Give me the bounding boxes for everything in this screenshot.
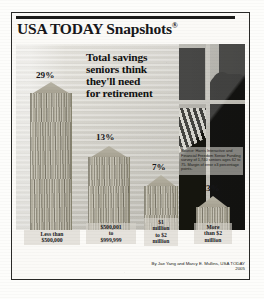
snapshot-card: USA TODAY Snapshots® bbox=[0, 0, 264, 299]
category-label: More than $2 million bbox=[194, 223, 232, 244]
category-label-line: $500,000 bbox=[24, 237, 80, 243]
byline-credit: By Jae Yang and Marcy E. Mullins, USA TO… bbox=[151, 261, 245, 266]
masthead: USA TODAY Snapshots® bbox=[12, 14, 249, 44]
bar-value-label: 13% bbox=[96, 132, 114, 142]
byline-year: 2005 bbox=[151, 266, 245, 271]
masthead-brand: USA TODAY Snapshots bbox=[17, 20, 172, 37]
category-axis: Less than $500,000 $500,001 to $999,999 … bbox=[16, 222, 245, 258]
category-label-line: $999,999 bbox=[86, 237, 136, 243]
category-label: $500,001 to $999,999 bbox=[86, 223, 136, 244]
headline-line-3: they'll need bbox=[86, 76, 190, 88]
masthead-rule bbox=[16, 16, 235, 19]
category-label-line: million bbox=[144, 238, 178, 244]
bar-body bbox=[88, 157, 130, 230]
bar-value-label: 29% bbox=[36, 70, 54, 80]
registered-mark-icon: ® bbox=[172, 21, 178, 30]
category-label: $1 million to $2 million bbox=[144, 218, 178, 246]
chart-plate: 29% 13% 7% 3% Total savings seniors thin… bbox=[16, 44, 245, 230]
bar-woodgrain-overlay bbox=[89, 157, 129, 230]
byline: By Jae Yang and Marcy E. Mullins, USA TO… bbox=[151, 261, 245, 271]
headline-line-4: for retirement bbox=[86, 88, 190, 100]
category-label: Less than $500,000 bbox=[24, 230, 80, 245]
bar-item bbox=[88, 146, 130, 230]
category-label-line: million bbox=[194, 237, 232, 243]
masthead-title: USA TODAY Snapshots® bbox=[17, 20, 178, 38]
source-note: Source: Harris Interactive and Financial… bbox=[179, 147, 243, 175]
bar-value-label: 7% bbox=[152, 162, 166, 172]
chart-headline: Total savings seniors think they'll need… bbox=[86, 52, 190, 100]
bar-item bbox=[30, 82, 72, 230]
bar-body bbox=[30, 93, 72, 230]
bar-value-label: 3% bbox=[206, 183, 220, 193]
bar-woodgrain-overlay bbox=[31, 93, 71, 230]
